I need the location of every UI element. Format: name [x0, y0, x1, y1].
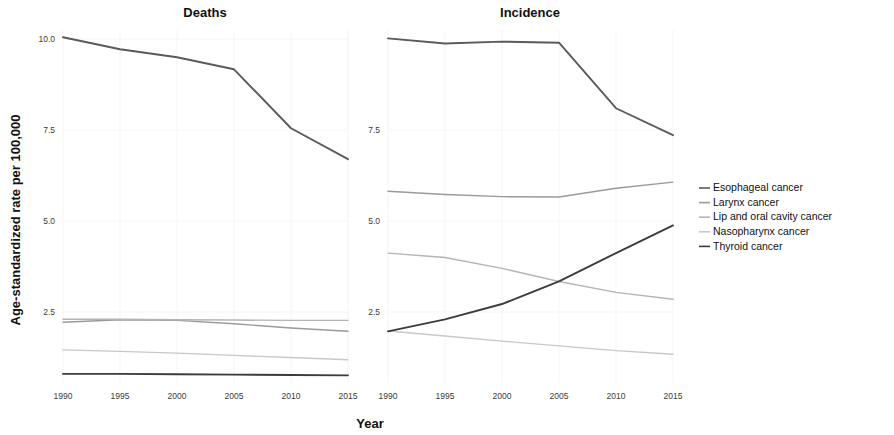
y-tick-label: 7.5 — [368, 125, 380, 135]
series-line-nasopharynx-cancer — [63, 350, 348, 360]
y-tick-label: 2.5 — [43, 307, 55, 317]
x-tick-label: 2015 — [664, 391, 683, 401]
series-line-larynx-cancer — [388, 182, 673, 197]
x-axis-title: Year — [356, 416, 383, 431]
x-tick-label: 1995 — [436, 391, 455, 401]
series-line-thyroid-cancer — [388, 225, 673, 331]
x-tick-label: 2000 — [168, 391, 187, 401]
y-tick-label: 7.5 — [43, 125, 55, 135]
x-tick-label: 2010 — [607, 391, 626, 401]
y-tick-label: 5.0 — [368, 216, 380, 226]
series-line-thyroid-cancer — [63, 374, 348, 375]
x-tick-label: 2015 — [339, 391, 358, 401]
y-tick-label: 5.0 — [43, 216, 55, 226]
y-tick-label: 10.0 — [38, 34, 55, 44]
series-line-esophageal-cancer — [388, 38, 673, 135]
x-tick-label: 1995 — [111, 391, 130, 401]
x-tick-label: 2010 — [282, 391, 301, 401]
legend-label-thyroid: Thyroid cancer — [713, 240, 783, 252]
series-line-esophageal-cancer — [63, 37, 348, 159]
legend: Esophageal cancerLarynx cancerLip and or… — [699, 181, 833, 251]
legend-label-nasopharynx: Nasopharynx cancer — [713, 225, 810, 237]
panel-deaths: Deaths10.07.55.02.5199019952000200520102… — [38, 5, 357, 401]
panel-incidence: Incidence7.55.02.51990199520002005201020… — [368, 5, 683, 401]
legend-label-esophageal: Esophageal cancer — [713, 181, 803, 193]
x-tick-label: 2000 — [493, 391, 512, 401]
panel-title-deaths: Deaths — [183, 5, 226, 20]
faceted-line-chart: Age-standardized rate per 100,000 Year D… — [0, 0, 894, 435]
y-axis-title: Age-standardized rate per 100,000 — [8, 115, 23, 326]
x-tick-label: 2005 — [225, 391, 244, 401]
x-tick-label: 2005 — [550, 391, 569, 401]
y-tick-label: 2.5 — [368, 307, 380, 317]
x-tick-label: 1990 — [54, 391, 73, 401]
legend-label-larynx: Larynx cancer — [713, 196, 779, 208]
panel-title-incidence: Incidence — [500, 5, 560, 20]
series-line-larynx-cancer — [63, 320, 348, 332]
legend-label-lip_oral: Lip and oral cavity cancer — [713, 210, 833, 222]
series-line-nasopharynx-cancer — [388, 331, 673, 354]
x-tick-label: 1990 — [379, 391, 398, 401]
